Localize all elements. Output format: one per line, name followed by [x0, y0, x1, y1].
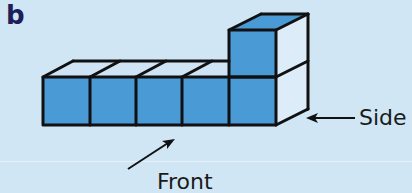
- front-label: Front: [157, 170, 213, 193]
- side-label: Side: [359, 106, 407, 130]
- front-face-cube-4: [182, 77, 229, 125]
- front-face-cube-2: [90, 77, 136, 125]
- side-arrow: [306, 113, 355, 123]
- front-face-stacked: [229, 30, 276, 77]
- front-face-cube-3: [136, 77, 182, 125]
- front-arrow: [128, 139, 175, 169]
- cube-diagram: [0, 0, 412, 193]
- front-face-cube-1: [43, 77, 90, 125]
- front-face-cube-5: [229, 77, 276, 125]
